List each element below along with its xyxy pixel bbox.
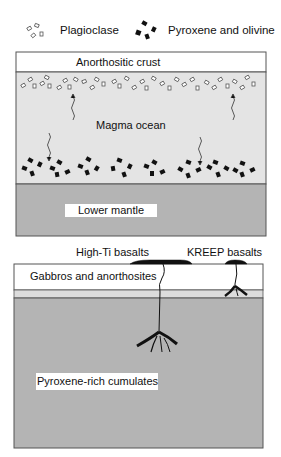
lower-mantle-label: Lower mantle bbox=[78, 204, 144, 217]
bottom-cross-section bbox=[14, 264, 263, 448]
legend-pyroxene-label: Pyroxene and olivine bbox=[168, 24, 275, 37]
anorthositic-crust-label: Anorthositic crust bbox=[76, 56, 160, 69]
kreep-basalts-label: KREEP basalts bbox=[187, 246, 262, 259]
high-ti-basalts-label: High-Ti basalts bbox=[76, 246, 149, 259]
pyroxene-cumulates-label: Pyroxene-rich cumulates bbox=[37, 375, 158, 388]
legend-plagioclase-label: Plagioclase bbox=[60, 24, 119, 37]
hollow-crystals-icon bbox=[27, 23, 43, 37]
solid-crystals-icon bbox=[135, 20, 157, 39]
gabbros-anorthosites-label: Gabbros and anorthosites bbox=[30, 270, 157, 283]
magma-ocean-label: Magma ocean bbox=[96, 119, 166, 132]
